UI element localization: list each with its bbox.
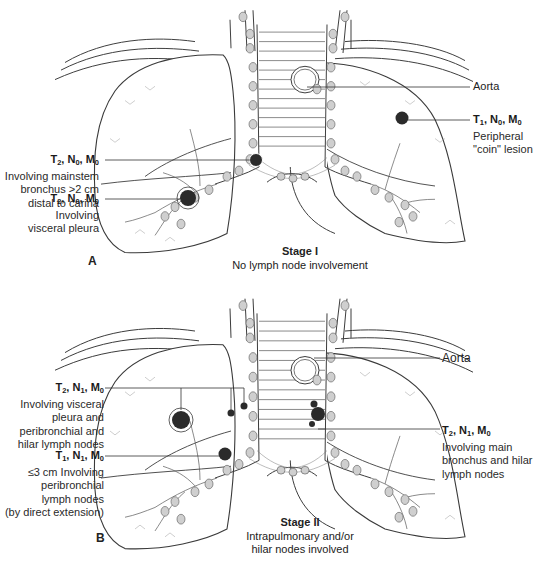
- annotation-line: peribronchial: [0, 479, 104, 493]
- annotation-b-peribronchial: T1, N1, M0 ≤3 cm Involving peribronchial…: [0, 449, 104, 520]
- annotation-line: Involving visceral: [0, 398, 104, 412]
- annotation-line: visceral pleura: [0, 222, 99, 236]
- involved-node: [311, 401, 318, 408]
- annotation-line: "coin" lesion: [473, 143, 540, 157]
- annotation-line: Peripheral: [473, 130, 540, 144]
- panel-a-lungs: [55, 10, 473, 252]
- aorta-label-b: Aorta: [442, 351, 471, 365]
- tumor-visceral-pleura: [180, 190, 196, 206]
- stage-subtitle: No lymph node involvement: [200, 259, 400, 273]
- tnm-code: T1, N0, M0: [473, 113, 540, 130]
- involved-node: [228, 410, 235, 417]
- aorta-label-a: Aorta: [473, 80, 499, 92]
- annotation-line: ≤3 cm Involving: [0, 466, 104, 480]
- annotation-line: lymph nodes: [0, 493, 104, 507]
- annotation-line: Involving: [0, 209, 99, 223]
- tnm-code: T2, N0, M0: [0, 192, 99, 209]
- panel-b-lungs: [55, 299, 473, 549]
- stage-subtitle: Intrapulmonary and/or: [200, 530, 400, 544]
- tumor-visceral-pleura-b: [172, 411, 190, 429]
- tumor-mainstem-bronchus: [250, 154, 263, 167]
- stage-caption-a: Stage I No lymph node involvement: [200, 245, 400, 272]
- annotation-line: (by direct extension): [0, 506, 104, 520]
- annotation-line: lymph nodes: [442, 468, 540, 482]
- involved-node: [309, 421, 315, 427]
- tumor-main-bronchus: [311, 407, 325, 421]
- annotation-a-coin: T1, N0, M0 Peripheral "coin" lesion: [473, 113, 540, 157]
- annotation-line: peribronchial and: [0, 425, 104, 439]
- stage-caption-b: Stage II Intrapulmonary and/or hilar nod…: [200, 516, 400, 557]
- involved-node: [241, 403, 248, 410]
- annotation-line: Involving main: [442, 441, 540, 455]
- tnm-code: T1, N1, M0: [0, 449, 104, 466]
- tnm-code: T2, N0, M0: [0, 153, 99, 170]
- panel-letter-b: B: [96, 531, 105, 545]
- tnm-code: T2, N1, M0: [0, 381, 104, 398]
- annotation-line: bronchus and hilar: [442, 454, 540, 468]
- tumor-peribronchial: [219, 448, 232, 461]
- annotation-a-pleura: T2, N0, M0 Involving visceral pleura: [0, 192, 99, 236]
- panel-letter-a: A: [88, 254, 97, 268]
- annotation-b-pleura-nodes: T2, N1, M0 Involving visceral pleura and…: [0, 381, 104, 452]
- stage-subtitle: hilar nodes involved: [200, 543, 400, 557]
- stage-title: Stage I: [200, 245, 400, 259]
- tnm-code: T2, N1, M0: [442, 424, 540, 441]
- tumor-peripheral-coin: [396, 112, 409, 125]
- annotation-b-main-bronchus: T2, N1, M0 Involving main bronchus and h…: [442, 424, 540, 481]
- stage-title: Stage II: [200, 516, 400, 530]
- annotation-line: pleura and: [0, 411, 104, 425]
- annotation-line: Involving mainstem: [0, 170, 99, 184]
